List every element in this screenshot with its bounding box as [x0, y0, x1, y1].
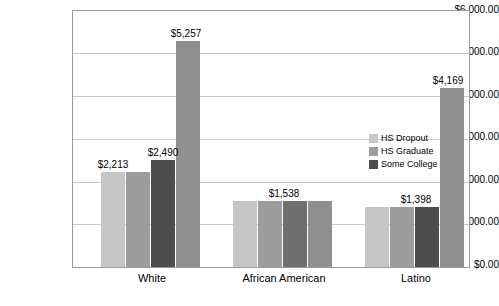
legend-item-hs-dropout: HS Dropout	[369, 133, 447, 143]
bar-african-american-hs-dropout	[233, 201, 257, 267]
legend-item-hs-graduate: HS Graduate	[369, 146, 447, 156]
data-label-white-2213: $2,213	[83, 160, 143, 170]
data-label-latino-1398: $1,398	[385, 195, 447, 205]
bar-latino-hs-graduate	[390, 207, 414, 267]
data-label-latino-4169: $4,169	[417, 76, 479, 86]
bar-chart: $6,000.00 $5,000.00 $4,000.00 $3,000.00 …	[0, 0, 499, 306]
bar-african-american-hs-graduate	[258, 201, 282, 267]
legend-swatch-some-college	[369, 160, 378, 169]
data-label-african-american-1538: $1,538	[253, 189, 315, 199]
bar-white-some-college	[151, 160, 175, 267]
bar-white-hs-dropout	[101, 172, 125, 267]
legend-swatch-hs-dropout	[369, 134, 378, 143]
legend-label-hs-graduate: HS Graduate	[381, 146, 439, 156]
bar-latino-some-college	[415, 207, 439, 267]
bar-latino-hs-dropout	[365, 207, 389, 267]
bar-group-white	[101, 11, 205, 267]
data-label-white-2490: $2,490	[133, 148, 193, 158]
bar-african-american-fourth	[308, 201, 332, 267]
legend-swatch-hs-graduate	[369, 147, 378, 156]
legend: HS Dropout HS Graduate Some College	[369, 133, 447, 172]
x-tick-label-african-american: African American	[232, 272, 336, 284]
legend-label-some-college: Some College	[381, 159, 439, 169]
legend-label-hs-dropout: HS Dropout	[381, 133, 439, 143]
bar-latino-fourth	[440, 88, 464, 267]
bar-group-african-american	[233, 11, 337, 267]
bar-african-american-some-college	[283, 201, 307, 267]
x-tick-label-latino: Latino	[364, 272, 468, 284]
data-label-white-5257: $5,257	[155, 29, 217, 39]
bar-white-hs-graduate	[126, 172, 150, 267]
x-tick-label-white: White	[100, 272, 204, 284]
plot-area: $2,213 $2,490 $5,257 $1,538 $1,398 $4,16…	[72, 10, 470, 268]
legend-item-some-college: Some College	[369, 159, 447, 169]
